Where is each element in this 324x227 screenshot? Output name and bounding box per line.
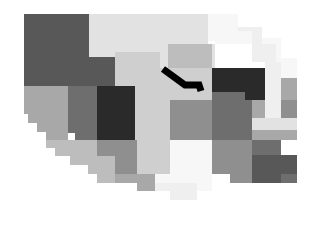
map-region-central-band <box>168 44 212 68</box>
map-region-east-small-light <box>252 118 297 130</box>
map-region-northeast-strip <box>281 78 297 100</box>
choropleth-map-canvas <box>0 0 324 227</box>
map-region-west-lower-step <box>55 148 70 156</box>
map-region-north-central-west <box>89 14 160 57</box>
map-region-central-dark-block <box>97 86 135 140</box>
map-figure <box>0 0 324 227</box>
map-region-northwest-notch <box>89 57 115 86</box>
map-region-west-central-gray <box>68 86 97 140</box>
map-region-east-notch-gray <box>281 100 297 118</box>
map-region-central-mid-gray <box>170 100 212 140</box>
map-region-northwest-upper <box>24 14 100 86</box>
